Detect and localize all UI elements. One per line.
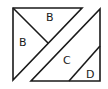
label-c: C [63, 54, 71, 67]
label-b-top: B [46, 11, 54, 24]
square-dissection-diagram: B B C D [0, 0, 108, 89]
d-divider-line [69, 46, 100, 81]
label-b-left: B [19, 36, 27, 49]
label-d: D [86, 68, 94, 81]
